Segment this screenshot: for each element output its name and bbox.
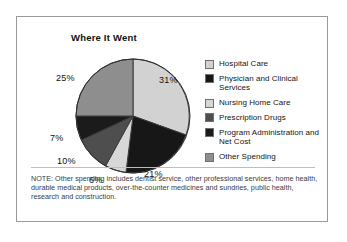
legend-label-hospital-care: Hospital Care (219, 59, 268, 69)
legend-swatch-icon-hospital-care (205, 60, 214, 69)
legend-label-prescription-drugs: Prescription Drugs (219, 113, 286, 123)
legend-swatch-icon-program-administration (205, 128, 214, 137)
legend-label-other-spending: Other Spending (219, 152, 276, 162)
chart-note: NOTE: Other spending includes dentist se… (31, 174, 319, 202)
legend-item-other-spending[interactable]: Other Spending (205, 152, 323, 162)
pie-chart: 31% 21% 6% 10% 7% 25% (39, 49, 199, 184)
pie-label-other-spending: 25% (56, 73, 75, 83)
legend-swatch-icon-other-spending (205, 153, 214, 162)
legend-swatch-icon-prescription-drugs (205, 113, 214, 122)
legend-item-program-administration[interactable]: Program Administration and Net Cost (205, 128, 323, 147)
legend-label-program-administration: Program Administration and Net Cost (219, 128, 323, 147)
chart-frame: Where It Went 31% 21% 6% 10% 7% 25% (16, 16, 328, 222)
legend-item-physician-clinical[interactable]: Physician and Clinical Services (205, 74, 323, 93)
chart-legend: Hospital Care Physician and Clinical Ser… (205, 59, 323, 167)
legend-swatch-icon-nursing-home-care (205, 99, 214, 108)
legend-item-hospital-care[interactable]: Hospital Care (205, 59, 323, 69)
legend-item-prescription-drugs[interactable]: Prescription Drugs (205, 113, 323, 123)
legend-label-nursing-home-care: Nursing Home Care (219, 98, 291, 108)
note-divider (31, 167, 315, 168)
pie-slice-other-spending[interactable] (76, 59, 133, 116)
pie-label-prescription-drugs: 10% (57, 156, 76, 166)
legend-item-nursing-home-care[interactable]: Nursing Home Care (205, 98, 323, 108)
legend-swatch-icon-physician-clinical (205, 74, 214, 83)
pie-label-program-administration: 7% (50, 133, 63, 143)
pie-label-hospital-care: 31% (159, 75, 178, 85)
legend-label-physician-clinical: Physician and Clinical Services (219, 74, 323, 93)
chart-title: Where It Went (71, 32, 137, 43)
